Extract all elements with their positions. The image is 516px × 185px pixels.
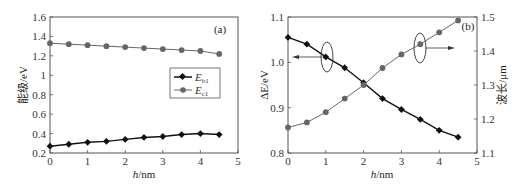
circle-marker (141, 45, 147, 51)
diamond-marker (178, 131, 185, 138)
series-波长 (285, 18, 461, 131)
circle-marker (455, 18, 461, 24)
diamond-marker (216, 131, 223, 138)
y-right-tick-label: 1.3 (481, 79, 495, 91)
panel-label-a: (a) (214, 23, 227, 36)
annotation-right-axis (414, 33, 455, 63)
diamond-marker (47, 143, 54, 150)
diamond-marker (285, 34, 292, 41)
diamond-marker (65, 141, 72, 148)
y-right-tick-label: 1.2 (481, 113, 495, 125)
x-tick-label: 3 (399, 155, 405, 167)
circle-marker (417, 41, 423, 47)
chart-a: 0.20.40.60.811.21.41.6 012345 (a) 能级/eV … (16, 11, 241, 180)
diamond-marker (436, 127, 443, 134)
circle-marker (47, 40, 53, 46)
y-tick-label: 1.4 (32, 30, 46, 42)
x-tick-label: 5 (474, 155, 480, 167)
plot-frame-b (288, 17, 477, 153)
y-tick-label: 0.8 (270, 147, 284, 159)
circle-marker (198, 48, 204, 54)
diamond-marker (122, 136, 129, 143)
series-ΔE (285, 34, 462, 141)
series-E_c1 (47, 40, 222, 56)
x-tick-label: 2 (361, 155, 367, 167)
circle-marker (85, 42, 91, 48)
y-tick-label: 1.2 (32, 50, 46, 62)
circle-marker (304, 120, 310, 126)
diamond-marker (141, 134, 148, 141)
circle-marker (66, 41, 72, 47)
diamond-marker (417, 116, 424, 123)
circle-marker (122, 44, 128, 50)
circle-marker (179, 47, 185, 53)
diamond-marker (159, 133, 166, 140)
circle-marker (436, 29, 442, 35)
x-tick-label: 0 (285, 155, 291, 167)
y-tick-label: 0.9 (270, 102, 284, 114)
x-tick-label: 1 (85, 155, 91, 167)
y-tick-label: 0.8 (32, 89, 46, 101)
y-right-tick-label: 1.1 (481, 147, 495, 159)
legend-a: Eb1 Ec1 (170, 68, 220, 98)
series-b (285, 18, 462, 141)
circle-marker (104, 43, 110, 49)
x-tick-label: 4 (198, 155, 204, 167)
y-axis-label-a: 能级/eV (16, 66, 29, 104)
y-tick-label: 0.2 (32, 147, 46, 159)
y-tick-label: 1 (41, 69, 47, 81)
circle-marker (399, 52, 405, 58)
circle-marker (323, 109, 329, 115)
circle-marker (160, 46, 166, 52)
y-right-tick-label: 1.5 (481, 11, 495, 23)
y-axis-label-b: ΔE/eV (258, 70, 270, 100)
diamond-marker (398, 106, 405, 113)
x-tick-label: 2 (122, 155, 128, 167)
y-tick-label: 1.1 (270, 11, 284, 23)
circle-marker (342, 96, 348, 102)
x-tick-label: 5 (235, 155, 241, 167)
diamond-marker (197, 130, 204, 137)
y-right-tick-label: 1.4 (481, 45, 495, 57)
circle-marker (380, 65, 386, 71)
diamond-marker (103, 138, 110, 145)
circle-marker (361, 82, 367, 88)
arrow-right-icon (448, 46, 455, 50)
chart-b: 0.80.91.01.1 1.11.21.31.41.5 012345 (b) … (258, 11, 508, 180)
x-tick-label: 3 (160, 155, 166, 167)
figure: 0.20.40.60.811.21.41.6 012345 (a) 能级/eV … (0, 0, 516, 185)
arrow-left-icon (292, 55, 299, 59)
diamond-marker (455, 134, 462, 141)
diamond-marker (84, 139, 91, 146)
y-tick-label: 1.0 (270, 56, 284, 68)
y-tick-label: 0.6 (32, 108, 46, 120)
circle-marker-icon (180, 87, 186, 93)
x-tick-label: 1 (323, 155, 329, 167)
y-axis-right-label-b: 波长/μm (496, 65, 508, 105)
circle-marker (216, 51, 222, 57)
x-axis-label-b: h/nm (371, 168, 394, 180)
x-tick-label: 0 (47, 155, 53, 167)
panel-label-b: (b) (462, 20, 475, 33)
y-tick-label: 1.6 (32, 11, 46, 23)
y-tick-label: 0.4 (32, 128, 46, 140)
circle-marker (285, 125, 291, 131)
series-E_b1 (47, 130, 223, 149)
x-axis-label-a: h/nm (133, 168, 156, 180)
x-tick-label: 4 (436, 155, 442, 167)
